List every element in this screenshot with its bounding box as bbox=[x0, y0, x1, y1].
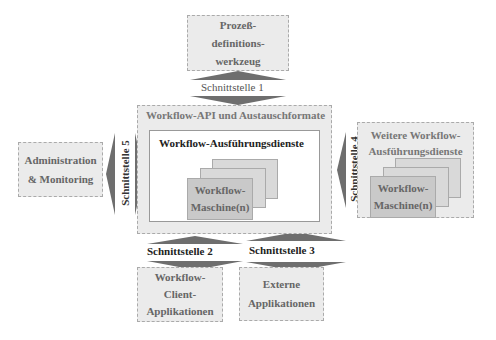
machine-line: Maschine(n) bbox=[374, 197, 433, 214]
box-line: Administration bbox=[24, 151, 96, 170]
box-line: & Monitoring bbox=[28, 170, 94, 189]
workflow-client-applications-box: Workflow- Client- Applikationen bbox=[137, 267, 223, 322]
administration-monitoring-box: Administration & Monitoring bbox=[18, 142, 103, 197]
machine-line: Workflow- bbox=[378, 180, 429, 197]
interface-2-label: Schnittstelle 2 bbox=[147, 245, 213, 257]
workflow-machine-box: Workflow- Maschine(n) bbox=[187, 178, 253, 220]
box-line: Applikationen bbox=[248, 294, 315, 313]
box-line: Ausführungsdienste bbox=[368, 143, 462, 159]
workflow-api-title: Workflow-API und Austauschformate bbox=[146, 109, 325, 121]
workflow-execution-services-title: Workflow-Ausführungsdienste bbox=[159, 137, 304, 149]
box-line: Client- bbox=[164, 286, 196, 303]
right-workflow-machine-box: Workflow- Maschine(n) bbox=[370, 176, 436, 218]
box-line: Applikationen bbox=[146, 303, 213, 320]
interface-5-label: Schnittstelle 5 bbox=[119, 130, 131, 216]
box-line: Workflow- bbox=[155, 269, 206, 286]
machine-line: Workflow- bbox=[195, 182, 246, 199]
external-applications-box: Externe Applikationen bbox=[239, 267, 324, 321]
box-line: Externe bbox=[263, 275, 300, 294]
interface-3-label: Schnittstelle 3 bbox=[249, 244, 315, 256]
machine-line: Maschine(n) bbox=[191, 199, 250, 216]
interface-1-label: Schnittstelle 1 bbox=[201, 81, 264, 93]
box-line: Weitere Workflow- bbox=[371, 127, 461, 143]
